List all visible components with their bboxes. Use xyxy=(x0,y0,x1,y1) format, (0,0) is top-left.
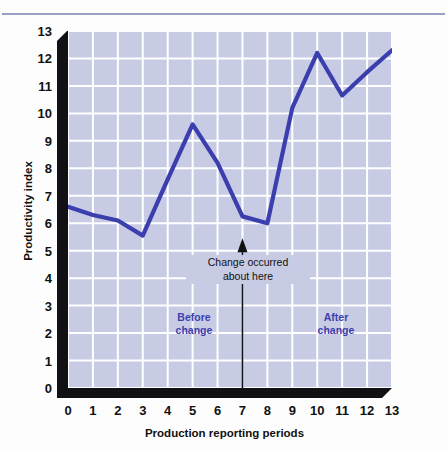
x-tick-label: 4 xyxy=(155,404,181,417)
y-tick-label: 10 xyxy=(30,107,52,120)
before-change-label: Before change xyxy=(164,311,224,337)
x-tick-label: 0 xyxy=(55,404,81,417)
top-divider-rule xyxy=(2,13,445,15)
y-tick-label: 6 xyxy=(30,217,52,230)
y-tick-label: 8 xyxy=(30,162,52,175)
x-tick-label: 3 xyxy=(130,404,156,417)
y-tick-label: 3 xyxy=(30,299,52,312)
y-tick-label: 4 xyxy=(30,272,52,285)
x-tick-label: 1 xyxy=(80,404,106,417)
y-tick-label: 7 xyxy=(30,189,52,202)
y-axis-tick-labels: 012345678910111213 xyxy=(26,31,52,388)
x-tick-label: 10 xyxy=(304,404,330,417)
x-axis-title: Production reporting periods xyxy=(57,427,392,439)
x-tick-label: 11 xyxy=(329,404,355,417)
x-tick-label: 2 xyxy=(105,404,131,417)
y-tick-label: 11 xyxy=(30,79,52,92)
y-tick-label: 5 xyxy=(30,244,52,257)
x-tick-label: 6 xyxy=(205,404,231,417)
x-tick-label: 9 xyxy=(279,404,305,417)
x-tick-label: 13 xyxy=(379,404,405,417)
y-tick-label: 9 xyxy=(30,134,52,147)
y-tick-label: 2 xyxy=(30,327,52,340)
x-tick-label: 7 xyxy=(229,404,255,417)
plot-area-container: Before change After change Change occurr… xyxy=(57,31,392,398)
y-tick-label: 0 xyxy=(30,382,52,395)
x-tick-label: 8 xyxy=(254,404,280,417)
chart-figure: Productivity index 012345678910111213 Be… xyxy=(0,0,447,451)
x-axis-tick-labels: 012345678910111213 xyxy=(68,404,392,422)
after-change-label: After change xyxy=(306,311,366,337)
y-tick-label: 13 xyxy=(30,25,52,38)
x-tick-label: 5 xyxy=(180,404,206,417)
x-tick-label: 12 xyxy=(354,404,380,417)
change-arrow-caption: Change occurred about here xyxy=(186,255,310,284)
plot-panel: Before change After change Change occurr… xyxy=(68,31,392,388)
y-tick-label: 1 xyxy=(30,354,52,367)
y-tick-label: 12 xyxy=(30,52,52,65)
